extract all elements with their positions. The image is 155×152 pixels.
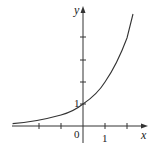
x-axis-label: x xyxy=(140,128,147,142)
y-axis-arrow-icon xyxy=(81,6,86,13)
y-tick-label-1: 1 xyxy=(74,97,80,109)
x-tick-label-1: 1 xyxy=(102,132,108,144)
exponential-graph: y x 0 1 1 xyxy=(0,0,155,152)
exponential-curve xyxy=(13,14,133,124)
y-axis-label: y xyxy=(73,3,80,17)
origin-label: 0 xyxy=(74,128,80,140)
